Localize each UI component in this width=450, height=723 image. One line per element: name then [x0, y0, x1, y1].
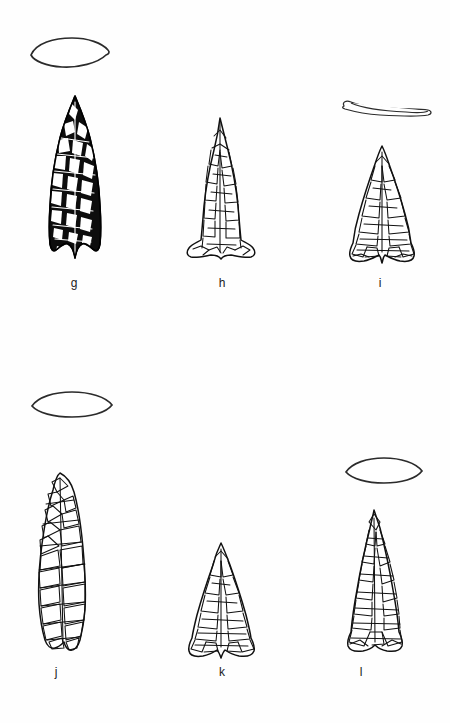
artifact-drawing-j	[24, 470, 104, 662]
specimen-label-j: j	[36, 666, 76, 678]
artifact-drawing-g	[42, 94, 110, 274]
artifact-drawing-h	[181, 116, 261, 274]
specimen-label-h: h	[202, 277, 242, 289]
cross-section-l	[342, 456, 426, 486]
projectile-point-plate: g	[0, 0, 450, 723]
artifact-drawing-k	[184, 541, 260, 663]
cross-section-i	[338, 96, 434, 122]
specimen-label-g: g	[54, 277, 94, 289]
specimen-label-i: i	[360, 277, 400, 289]
cross-section-g	[28, 36, 112, 70]
specimen-label-l: l	[341, 666, 381, 678]
artifact-drawing-i	[343, 144, 421, 276]
cross-section-j	[28, 390, 116, 420]
artifact-drawing-l	[338, 508, 412, 664]
specimen-label-k: k	[202, 666, 242, 678]
